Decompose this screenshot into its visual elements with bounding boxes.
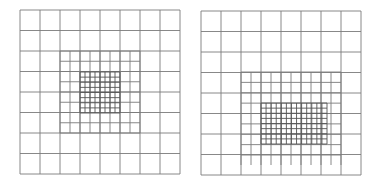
amr-mesh-figure: [0, 0, 376, 183]
left-mesh: [20, 10, 180, 174]
right-mesh: [201, 11, 361, 175]
mesh-diagram: [0, 0, 376, 183]
